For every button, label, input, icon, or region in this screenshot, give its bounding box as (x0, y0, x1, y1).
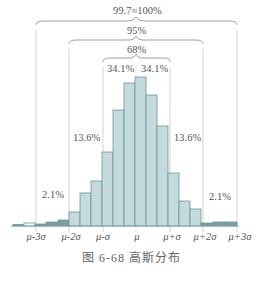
histogram-bar (113, 110, 124, 226)
label-68: 68% (127, 44, 146, 55)
histogram-bar (58, 220, 69, 226)
tick-mu-minus-sigma: μ-σ (96, 231, 110, 242)
label-13-6-left: 13.6% (73, 132, 100, 143)
tick-mu-plus-3sigma: μ+3σ (229, 231, 252, 242)
label-34-1-left: 34.1% (107, 63, 134, 74)
label-99-7: 99.7≈100% (113, 5, 162, 16)
histogram-bar (124, 83, 135, 226)
label-2-1-left: 2.1% (42, 189, 64, 200)
label-13-6-right: 13.6% (174, 132, 201, 143)
histogram-bar (146, 95, 157, 226)
histogram-bar (201, 223, 213, 226)
histogram-bar (157, 126, 168, 226)
label-2-1-right: 2.1% (209, 191, 231, 202)
histogram-bar (69, 212, 80, 226)
label-95: 95% (127, 25, 146, 36)
histogram-bar (135, 77, 146, 226)
histogram-bar (91, 181, 102, 226)
label-34-1-right: 34.1% (141, 63, 168, 74)
histogram-bar (213, 222, 225, 226)
tick-mu: μ (134, 231, 139, 242)
tick-mu-plus-2sigma: μ+2σ (194, 231, 217, 242)
tick-mu-minus-3sigma: μ-3σ (26, 231, 45, 242)
figure-caption: 图 6-68 高斯分布 (0, 248, 263, 266)
histogram-bar (46, 222, 58, 226)
histogram-bar (80, 193, 91, 226)
histogram-bar (102, 152, 113, 226)
histogram-bar (225, 222, 237, 226)
histogram-bar (24, 223, 35, 226)
histogram-bar (168, 173, 179, 226)
histogram-bar (179, 201, 190, 226)
histogram-bar (190, 209, 201, 226)
tick-mu-plus-sigma: μ+σ (163, 231, 181, 242)
tick-mu-minus-2sigma: μ-2σ (61, 231, 80, 242)
